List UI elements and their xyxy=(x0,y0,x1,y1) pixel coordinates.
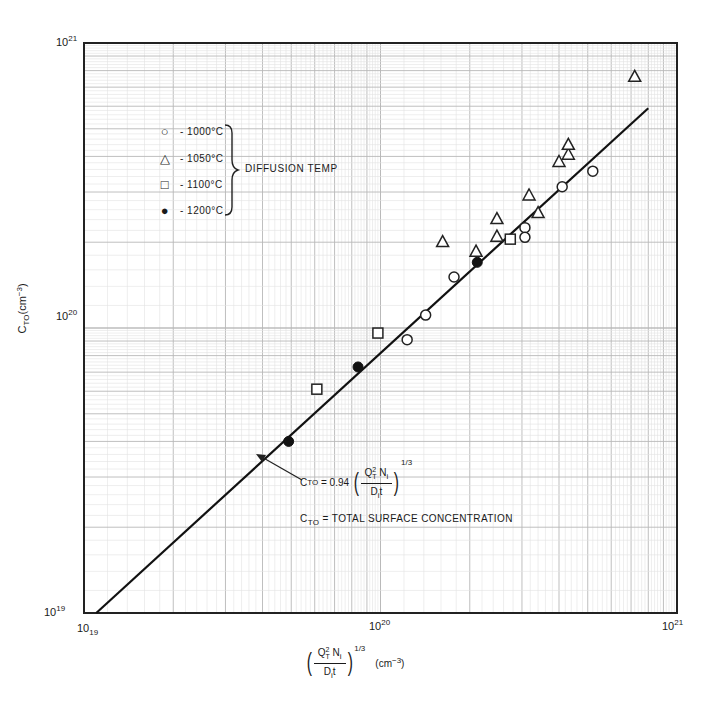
y-title-sub: TO xyxy=(22,315,31,326)
x-tick-exp: 19 xyxy=(89,628,98,637)
legend-label: - 1200°C xyxy=(180,205,224,216)
open-square-point xyxy=(312,384,322,394)
filled-circle-icon: ● xyxy=(158,203,172,218)
legend-group-label: DIFFUSION TEMP xyxy=(245,163,338,174)
open-triangle-point xyxy=(437,236,449,247)
open-triangle-point xyxy=(523,189,535,200)
eq-fraction: Q2T Ni Dit xyxy=(361,466,393,500)
q-symbol: Q xyxy=(318,647,326,658)
x-title-unit: (cm−3) xyxy=(375,656,404,669)
open-triangle-point xyxy=(491,230,503,241)
filled-circle-point xyxy=(284,436,294,446)
def-c-sub: TO xyxy=(308,518,320,527)
unit-exp: −3 xyxy=(392,656,401,665)
x-tick-base: 10 xyxy=(369,620,381,632)
t-symbol: t xyxy=(333,666,336,677)
unit-open: (cm xyxy=(375,658,392,669)
open-circle-point xyxy=(402,335,412,345)
y-tick-base: 10 xyxy=(56,36,68,48)
y-tick-1e20: 1020 xyxy=(56,308,77,322)
filled-circle-point xyxy=(353,362,363,372)
eq-n: N xyxy=(377,467,387,478)
y-tick-exp: 21 xyxy=(68,34,77,43)
definition-note: CTO = TOTAL SURFACE CONCENTRATION xyxy=(300,513,513,527)
y-title-unit-exp: −3 xyxy=(15,287,24,296)
eq-numerator: Q2T Ni xyxy=(361,466,393,484)
y-tick-1e19: 1019 xyxy=(44,604,65,618)
eq-power: 1/3 xyxy=(401,458,412,467)
open-square-point xyxy=(505,234,515,244)
eq-n-sub: i xyxy=(387,472,389,481)
legend-label: - 1050°C xyxy=(180,153,224,164)
plot-area xyxy=(0,0,717,703)
n-sub: i xyxy=(340,652,342,661)
x-tick-1e21: 1021 xyxy=(662,618,683,632)
x-title-power: 1/3 xyxy=(354,644,365,653)
open-circle-point xyxy=(588,166,598,176)
legend-label: - 1100°C xyxy=(180,179,223,190)
n-symbol: N xyxy=(330,647,340,658)
eq-c: C xyxy=(300,477,307,488)
eq-paren-close: ) xyxy=(394,467,399,498)
open-triangle-point xyxy=(629,70,641,81)
open-circle-point xyxy=(557,182,567,192)
open-circle-point xyxy=(421,310,431,320)
eq-q: Q xyxy=(365,467,373,478)
unit-close: ) xyxy=(401,658,404,669)
def-text: = TOTAL SURFACE CONCENTRATION xyxy=(319,513,512,524)
x-tick-exp: 21 xyxy=(674,618,683,627)
d-symbol: D xyxy=(324,666,331,677)
open-triangle-icon: △ xyxy=(158,151,172,166)
legend-label: - 1000°C xyxy=(180,126,224,137)
y-tick-1e21: 1021 xyxy=(56,34,77,48)
filled-circle-point xyxy=(472,257,482,267)
x-axis-title: ( Q2T Ni Dit ) 1/3 (cm−3) xyxy=(305,646,404,680)
eq-coefficient: = 0.94 xyxy=(318,477,352,488)
y-tick-base: 10 xyxy=(56,310,68,322)
open-triangle-point xyxy=(562,138,574,149)
legend-item-1200c: ● - 1200°C xyxy=(158,203,224,218)
open-circle-point xyxy=(520,232,530,242)
eq-d: D xyxy=(371,486,378,497)
open-circle-icon: ○ xyxy=(158,124,172,139)
def-c: C xyxy=(300,513,308,524)
open-triangle-point xyxy=(491,213,503,224)
x-tick-1e19: 1019 xyxy=(77,622,98,637)
fit-equation: CTO = 0.94 ( Q2T Ni Dit ) 1/3 xyxy=(300,466,412,500)
paren-close: ) xyxy=(347,647,352,678)
legend-item-1000c: ○ - 1000°C xyxy=(158,124,224,139)
y-title-main: C xyxy=(16,325,28,333)
legend-item-1100c: □ - 1100°C xyxy=(158,177,223,192)
y-title-unit-close: ) xyxy=(16,283,28,287)
data-points xyxy=(284,70,641,446)
open-circle-point xyxy=(449,272,459,282)
eq-paren-open: ( xyxy=(354,467,359,498)
x-title-denominator: Dit xyxy=(324,664,336,680)
x-tick-exp: 20 xyxy=(381,618,390,627)
y-tick-exp: 20 xyxy=(68,308,77,317)
x-tick-base: 10 xyxy=(77,622,89,634)
eq-c-sub: TO xyxy=(307,478,318,487)
open-triangle-point xyxy=(470,245,482,256)
x-tick-1e20: 1020 xyxy=(369,618,390,632)
legend-item-1050c: △ - 1050°C xyxy=(158,151,224,166)
legend-brace xyxy=(225,125,238,215)
x-title-numerator: Q2T Ni xyxy=(314,646,346,664)
open-square-icon: □ xyxy=(158,177,172,192)
y-tick-base: 10 xyxy=(44,606,56,618)
y-title-unit: (cm xyxy=(16,296,28,314)
open-circle-point xyxy=(520,223,530,233)
annotation-arrow-line xyxy=(260,456,302,480)
x-title-fraction: Q2T Ni Dit xyxy=(314,646,346,680)
x-tick-base: 10 xyxy=(662,620,674,632)
open-square-point xyxy=(373,328,383,338)
y-tick-exp: 19 xyxy=(56,604,65,613)
y-axis-title: CTO(cm−3) xyxy=(15,283,32,333)
eq-t: t xyxy=(380,486,383,497)
paren-open: ( xyxy=(307,647,312,678)
eq-denominator: Dit xyxy=(371,484,383,500)
